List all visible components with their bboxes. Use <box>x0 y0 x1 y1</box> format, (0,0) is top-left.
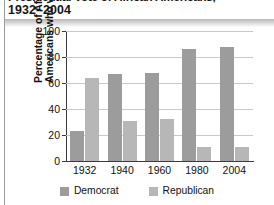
x-tick-label-1960: 1960 <box>141 165 178 176</box>
y-tick-label-60: 60 <box>34 78 60 89</box>
bar-democrat-1980 <box>182 49 196 161</box>
y-tick-label-40: 40 <box>34 104 60 115</box>
bar-republican-1940 <box>123 121 137 161</box>
chart-legend: DemocratRepublican <box>0 186 274 196</box>
x-tick-label-1940: 1940 <box>103 165 140 176</box>
legend-item-republican: Republican <box>149 186 215 196</box>
bar-democrat-1960 <box>145 73 159 161</box>
y-tick-label-80: 80 <box>34 52 60 63</box>
x-tick-label-1932: 1932 <box>66 165 103 176</box>
bar-republican-2004 <box>235 147 249 161</box>
legend-swatch-republican <box>149 187 158 196</box>
left-margin-rule <box>4 0 5 205</box>
bar-republican-1980 <box>197 147 211 161</box>
legend-label-republican: Republican <box>163 186 215 196</box>
bar-republican-1960 <box>160 119 174 161</box>
x-tick-label-1980: 1980 <box>178 165 215 176</box>
bar-democrat-2004 <box>220 47 234 161</box>
plot-area <box>66 31 253 161</box>
legend-swatch-democrat <box>60 187 69 196</box>
legend-label-democrat: Democrat <box>74 186 119 196</box>
x-tick-label-2004: 2004 <box>216 165 253 176</box>
y-tick-label-100: 100 <box>34 26 60 37</box>
y-tick-label-20: 20 <box>34 130 60 141</box>
bar-republican-1932 <box>85 78 99 161</box>
y-tick-label-0: 0 <box>34 156 60 167</box>
bar-democrat-1940 <box>108 74 122 161</box>
legend-item-democrat: Democrat <box>60 186 119 196</box>
chart-figure: Presidential Vote of African Americans, … <box>0 0 274 205</box>
x-axis-line <box>66 161 254 162</box>
gridline-100 <box>66 31 253 32</box>
bar-democrat-1932 <box>70 131 84 161</box>
